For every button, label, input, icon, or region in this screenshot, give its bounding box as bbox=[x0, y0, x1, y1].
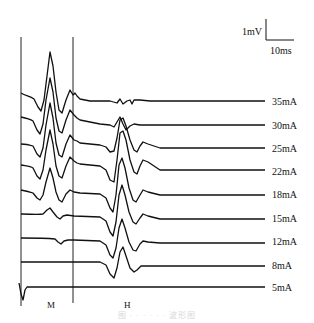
scale-bar bbox=[266, 19, 294, 40]
trace-label-22mA: 22mA bbox=[272, 167, 297, 177]
scale-voltage-label: 1mV bbox=[242, 27, 262, 37]
trace-8mA bbox=[21, 247, 265, 278]
trace-35mA bbox=[21, 52, 265, 113]
trace-label-30mA: 30mA bbox=[272, 121, 297, 131]
trace-label-25mA: 25mA bbox=[272, 144, 297, 154]
scale-time-label: 10ms bbox=[270, 46, 292, 56]
trace-18mA bbox=[21, 158, 265, 212]
trace-label-8mA: 8mA bbox=[272, 261, 292, 271]
trace-30mA bbox=[21, 78, 265, 134]
traces bbox=[19, 52, 265, 300]
trace-label-18mA: 18mA bbox=[272, 190, 297, 200]
trace-15mA bbox=[21, 185, 265, 236]
trace-label-12mA: 12mA bbox=[272, 237, 297, 247]
figure-caption: 图 · · · · · · 波形图 bbox=[0, 309, 314, 320]
trace-label-15mA: 15mA bbox=[272, 214, 297, 224]
trace-12mA bbox=[21, 219, 265, 258]
trace-22mA bbox=[21, 130, 265, 182]
trace-label-5mA: 5mA bbox=[272, 283, 292, 293]
trace-5mA bbox=[19, 283, 265, 300]
trace-25mA bbox=[21, 103, 265, 157]
emg-figure bbox=[0, 0, 314, 323]
trace-label-35mA: 35mA bbox=[272, 97, 297, 107]
